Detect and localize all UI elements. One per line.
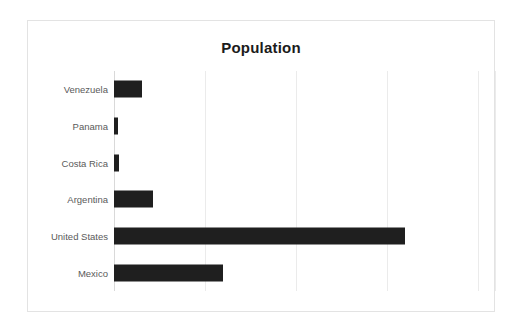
bar — [114, 118, 118, 135]
bar — [114, 154, 119, 171]
gridline — [296, 71, 297, 291]
category-label: Panama — [28, 121, 108, 132]
plot-area — [114, 71, 496, 291]
bar — [114, 191, 153, 208]
category-label: Venezuela — [28, 84, 108, 95]
chart-container: Population VenezuelaPanamaCosta RicaArge… — [27, 20, 495, 312]
category-label: Mexico — [28, 267, 108, 278]
gridline — [478, 71, 479, 291]
bar — [114, 81, 142, 98]
category-label: Argentina — [28, 194, 108, 205]
category-label: United States — [28, 231, 108, 242]
bar — [114, 264, 223, 281]
category-label: Costa Rica — [28, 157, 108, 168]
gridline — [387, 71, 388, 291]
gridline — [495, 71, 496, 291]
category-axis-labels: VenezuelaPanamaCosta RicaArgentinaUnited… — [28, 71, 108, 291]
bar — [114, 228, 405, 245]
chart-title: Population — [28, 39, 494, 56]
gridline — [205, 71, 206, 291]
